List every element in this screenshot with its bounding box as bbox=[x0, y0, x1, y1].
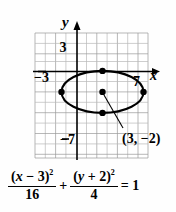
y-tick-label-3: 3 bbox=[60, 40, 67, 55]
equation-term-2: (y + 2)2 4 bbox=[70, 170, 118, 202]
term1-variable: x bbox=[16, 169, 23, 184]
x-tick-label-minus3: −3 bbox=[34, 70, 49, 85]
plus-operator: + bbox=[56, 178, 70, 194]
term1-operation: − 3 bbox=[23, 169, 45, 184]
term1-numerator: (x − 3)2 bbox=[8, 170, 56, 187]
y-axis-label: y bbox=[60, 14, 69, 30]
term1-denominator: 16 bbox=[25, 187, 39, 203]
point-covertex-bottom bbox=[99, 110, 105, 116]
point-covertex-top bbox=[99, 68, 105, 74]
equation-right-hand-side: = 1 bbox=[118, 178, 139, 194]
y-axis-arrow bbox=[74, 21, 81, 30]
y-tick-label-minus7: −7 bbox=[60, 132, 75, 147]
figure-page: y x 3 −3 7 −7 (3, −2) (x − 3)2 16 + (y +… bbox=[0, 0, 176, 212]
equation-term-1: (x − 3)2 16 bbox=[8, 170, 56, 202]
term2-denominator: 4 bbox=[91, 187, 98, 203]
center-point-label: (3, −2) bbox=[122, 131, 161, 147]
x-tick-label-7: 7 bbox=[133, 74, 140, 89]
point-vertex-right bbox=[140, 89, 146, 95]
point-center bbox=[99, 89, 105, 95]
ellipse-equation: (x − 3)2 16 + (y + 2)2 4 = 1 bbox=[8, 163, 176, 209]
term2-operation: + 2 bbox=[84, 169, 106, 184]
term2-exponent: 2 bbox=[111, 168, 115, 177]
term1-exponent: 2 bbox=[49, 168, 53, 177]
term2-numerator: (y + 2)2 bbox=[70, 170, 118, 187]
x-axis-label: x bbox=[149, 68, 157, 83]
point-vertex-left bbox=[58, 89, 64, 95]
